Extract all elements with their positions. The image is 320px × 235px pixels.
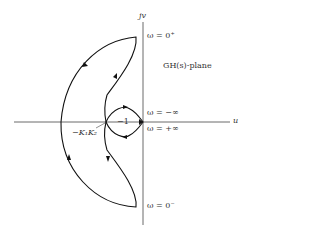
- direction-arrow-icon: [123, 105, 128, 109]
- omega-pos-inf-label: ω = +∞: [147, 124, 179, 133]
- imaginary-axis-label: jv: [139, 11, 146, 20]
- pointer-line: [96, 123, 105, 128]
- direction-arrow-icon: [106, 156, 110, 162]
- minus-one-label: −1: [117, 117, 129, 126]
- omega-0-plus-label: ω = 0⁺: [147, 31, 175, 40]
- plane-label: GH(s)-plane: [163, 61, 212, 70]
- omega-neg-inf-label: ω = −∞: [147, 108, 179, 117]
- direction-arrow-icon: [113, 73, 117, 79]
- crossing-point-label: −K₁K₂: [72, 128, 97, 137]
- omega-0-minus-label: ω = 0⁻: [147, 201, 175, 210]
- direction-arrow-icon: [122, 135, 127, 139]
- real-axis-label: u: [233, 116, 238, 125]
